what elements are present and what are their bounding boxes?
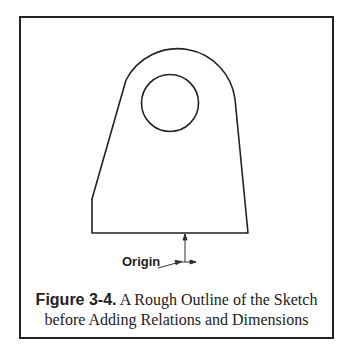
sketch-outline <box>92 49 248 233</box>
caption-line-2: before Adding Relations and Dimensions <box>19 310 334 330</box>
caption-line-1: A Rough Outline of the Sketch <box>117 291 318 308</box>
figure-number: Figure 3-4. <box>36 291 117 308</box>
origin-marker <box>158 234 196 268</box>
origin-label: Origin <box>122 254 160 269</box>
figure-caption: Figure 3-4. A Rough Outline of the Sketc… <box>19 290 334 330</box>
hole-circle <box>142 75 199 132</box>
